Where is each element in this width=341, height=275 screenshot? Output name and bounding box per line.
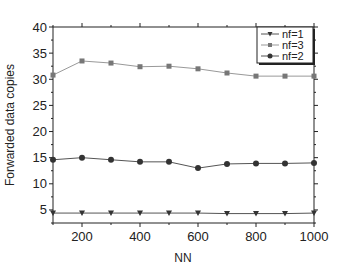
series-nf1: [50, 211, 317, 217]
x-tick-label: 200: [71, 229, 93, 244]
series-group: [50, 58, 317, 216]
marker-circle: [224, 161, 230, 167]
marker-circle: [282, 160, 288, 166]
marker-square: [167, 64, 172, 69]
y-tick-label: 40: [33, 20, 47, 35]
y-tick-label: 10: [33, 176, 47, 191]
marker-circle: [268, 54, 273, 59]
y-tick-label: 35: [33, 46, 47, 61]
x-tick-label: 600: [187, 229, 209, 244]
y-tick-label: 5: [40, 202, 47, 217]
marker-circle: [137, 159, 143, 165]
x-tick-label: 400: [129, 229, 151, 244]
y-tick-label: 15: [33, 150, 47, 165]
marker-square: [196, 66, 201, 71]
y-axis-title: Forwarded data copies: [3, 64, 17, 186]
legend: nf=1nf=3nf=2: [257, 27, 315, 65]
y-tick-label: 20: [33, 124, 47, 139]
marker-square: [80, 58, 85, 63]
marker-square: [268, 43, 272, 47]
series-nf2: [50, 155, 317, 171]
marker-square: [312, 74, 317, 79]
marker-square: [254, 74, 259, 79]
series-line: [53, 213, 314, 214]
marker-square: [225, 70, 230, 75]
y-tick-label: 30: [33, 72, 47, 87]
x-axis-title: NN: [174, 251, 191, 265]
marker-circle: [311, 160, 317, 166]
marker-square: [51, 73, 56, 78]
marker-circle: [79, 155, 85, 161]
marker-circle: [253, 160, 259, 166]
legend-label: nf=2: [282, 50, 304, 62]
series-line: [53, 158, 314, 168]
marker-square: [283, 74, 288, 79]
marker-square: [138, 64, 143, 69]
y-tick-label: 25: [33, 98, 47, 113]
marker-circle: [166, 159, 172, 165]
line-chart: 510152025303540 2004006008001000 nf=1nf=…: [0, 0, 341, 275]
marker-circle: [195, 165, 201, 171]
marker-circle: [50, 157, 56, 163]
x-tick-label: 1000: [300, 229, 329, 244]
x-tick-label: 800: [245, 229, 267, 244]
marker-square: [109, 61, 114, 66]
marker-circle: [108, 157, 114, 163]
